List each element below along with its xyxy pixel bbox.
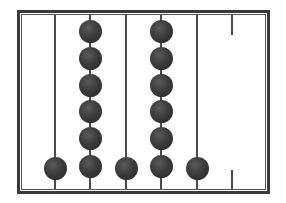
abacus-bead [79,74,102,97]
abacus-bead [79,155,102,178]
abacus-bead [150,20,173,43]
abacus-bead [79,20,102,43]
abacus-bead [150,47,173,70]
abacus-bead [79,100,102,123]
abacus-bead [150,74,173,97]
abacus-diagram [0,0,286,203]
abacus-bead [79,47,102,70]
abacus-bead [186,157,209,180]
abacus-bead [115,157,138,180]
abacus-bead [79,127,102,150]
abacus-rod-stub-top-6 [231,15,233,35]
abacus-bead [44,157,67,180]
abacus-bead [150,155,173,178]
abacus-bead [150,127,173,150]
abacus-rod-stub-bottom-6 [231,170,233,189]
abacus-bead [150,100,173,123]
